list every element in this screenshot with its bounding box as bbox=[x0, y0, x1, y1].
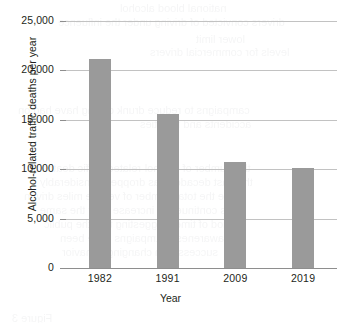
axis-baseline bbox=[66, 268, 337, 269]
y-axis-tick-label: 0 bbox=[0, 261, 54, 273]
y-axis-tick-label: 15,000 bbox=[0, 113, 54, 125]
gridline bbox=[66, 21, 337, 22]
x-axis-tick-label: 1991 bbox=[134, 272, 202, 284]
bar bbox=[89, 59, 111, 268]
bar bbox=[292, 168, 314, 268]
y-axis-tick-label: 10,000 bbox=[0, 162, 54, 174]
x-axis-label: Year bbox=[0, 292, 341, 304]
bar bbox=[224, 162, 246, 268]
y-axis-tick-label: 5,000 bbox=[0, 212, 54, 224]
y-axis-tick-label: 25,000 bbox=[0, 14, 54, 26]
bar bbox=[157, 114, 179, 268]
y-axis-tick-label: 20,000 bbox=[0, 63, 54, 75]
plot-area bbox=[66, 21, 337, 268]
x-axis-tick-label: 1982 bbox=[66, 272, 134, 284]
x-axis-tick-label: 2009 bbox=[202, 272, 270, 284]
x-axis-tick-label: 2019 bbox=[269, 272, 337, 284]
bar-chart: Alcohol-related traffic deaths per year … bbox=[0, 0, 341, 323]
